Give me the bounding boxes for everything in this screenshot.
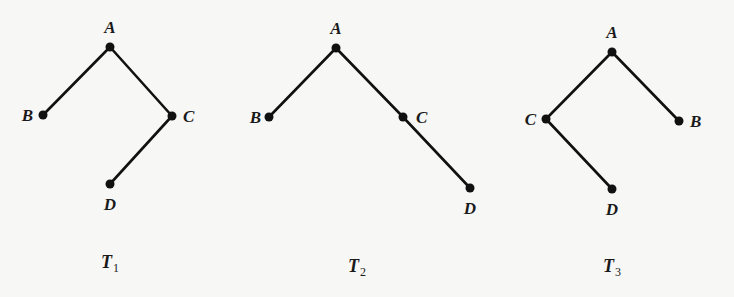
edge-a-b [612, 52, 679, 121]
node-label-b: B [689, 112, 701, 131]
node-a [106, 43, 115, 52]
node-a [608, 48, 617, 57]
node-label-b: B [21, 106, 33, 125]
node-b [39, 111, 48, 120]
edge-c-d [110, 116, 172, 184]
edge-a-b [43, 47, 110, 115]
edge-c-d [546, 119, 612, 189]
node-label-a: A [103, 18, 115, 37]
tree-caption: T3 [603, 256, 621, 279]
node-label-d: D [605, 200, 618, 219]
caption-subscript: 1 [113, 261, 119, 275]
tree-diagram: ABCDT1 ABCDT2 ACBDT3 [0, 0, 734, 297]
tree-t3: ACBDT3 [525, 23, 702, 279]
node-label-c: C [416, 108, 428, 127]
edge-c-d [403, 117, 470, 188]
tree-t2: ABCDT2 [249, 19, 476, 279]
caption-main: T [101, 252, 113, 272]
node-label-a: A [605, 23, 617, 42]
node-label-c: C [183, 107, 195, 126]
node-d [106, 180, 115, 189]
caption-main: T [348, 256, 360, 276]
node-d [608, 185, 617, 194]
caption-subscript: 2 [360, 265, 366, 279]
caption-subscript: 3 [615, 265, 621, 279]
node-label-d: D [463, 199, 476, 218]
node-label-d: D [103, 195, 116, 214]
tree-caption: T1 [101, 252, 119, 275]
node-b [265, 113, 274, 122]
node-c [542, 115, 551, 124]
node-label-c: C [525, 110, 537, 129]
node-a [332, 44, 341, 53]
tree-t1: ABCDT1 [21, 18, 195, 275]
node-c [168, 112, 177, 121]
edge-a-b [269, 48, 336, 117]
node-b [675, 117, 684, 126]
edge-a-c [110, 47, 172, 116]
node-d [466, 184, 475, 193]
edge-a-c [336, 48, 403, 117]
node-label-a: A [329, 19, 341, 38]
edge-a-c [546, 52, 612, 119]
node-label-b: B [249, 108, 261, 127]
caption-main: T [603, 256, 615, 276]
tree-caption: T2 [348, 256, 366, 279]
node-c [399, 113, 408, 122]
